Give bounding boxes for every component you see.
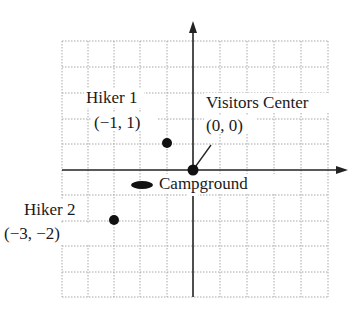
hiker-2-coord: (−3, −2) xyxy=(4,225,60,243)
hiker-1-point xyxy=(162,138,172,148)
campground-label: Campground xyxy=(159,175,248,193)
x-axis-arrow-icon xyxy=(336,166,348,174)
axes xyxy=(62,28,340,297)
visitors-center-label: Visitors Center xyxy=(206,94,308,112)
hiker-2-point xyxy=(109,215,119,225)
visitors-center-coord: (0, 0) xyxy=(206,117,243,135)
hiker-1-label: Hiker 1 xyxy=(86,89,137,107)
hiker-2-label: Hiker 2 xyxy=(24,201,75,219)
campground-marker xyxy=(131,181,153,189)
coordinate-plane xyxy=(0,0,357,315)
hiker-1-coord: (−1, 1) xyxy=(94,114,140,132)
y-axis-arrow-icon xyxy=(189,21,197,33)
